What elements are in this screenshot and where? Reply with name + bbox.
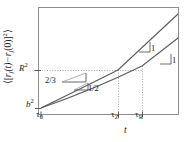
slope-annotation-one-lower: 1 bbox=[172, 56, 176, 65]
tau-subscript-z: Z bbox=[115, 113, 119, 120]
x-tick-label-tau-zero: τ0 bbox=[36, 110, 43, 119]
y-tick-label-r-squared: R2 bbox=[19, 64, 28, 73]
slope-triangle-23 bbox=[62, 73, 86, 82]
y-axis-label: ⟨[rj(t)−rj(0)]2⟩ bbox=[4, 5, 14, 109]
r-symbol: R bbox=[19, 63, 25, 73]
b-symbol: b bbox=[26, 99, 31, 109]
slope-annotation-one-upper: 1 bbox=[151, 44, 155, 53]
curve-zimm bbox=[41, 14, 178, 108]
slope-annotation-one-half: 1/2 bbox=[88, 84, 99, 93]
y-axis-r2: r bbox=[3, 53, 13, 57]
r-exponent: 2 bbox=[25, 61, 28, 68]
tau-subscript-0: 0 bbox=[40, 113, 43, 120]
msd-log-log-figure: ⟨[rj(t)−rj(0)]2⟩ t R2 b2 τ0 τZ τR 2/3 1/… bbox=[0, 0, 192, 142]
slope-annotation-two-thirds: 2/3 bbox=[45, 76, 56, 85]
y-axis-r1: r bbox=[3, 73, 13, 77]
y-axis-subscript-j: j bbox=[7, 72, 14, 74]
y-axis-bracket-open: ⟨[ bbox=[3, 77, 13, 84]
b-exponent: 2 bbox=[31, 97, 34, 104]
tau-subscript-r: R bbox=[139, 113, 143, 120]
y-axis-t-term: (t)− bbox=[3, 56, 13, 71]
y-axis-subscript-j2: j bbox=[7, 51, 14, 53]
x-tick-label-tau-z: τZ bbox=[111, 110, 119, 119]
x-tick-label-tau-r: τR bbox=[135, 110, 143, 119]
x-axis-label: t bbox=[124, 126, 127, 136]
y-tick-label-b-squared: b2 bbox=[26, 100, 34, 109]
slope-triangle-1-lower bbox=[160, 54, 171, 64]
y-axis-zero-term: (0)] bbox=[3, 36, 13, 50]
slope-triangle-1-upper bbox=[139, 42, 150, 52]
plot-canvas bbox=[0, 0, 192, 142]
y-axis-exponent: 2 bbox=[1, 33, 8, 36]
